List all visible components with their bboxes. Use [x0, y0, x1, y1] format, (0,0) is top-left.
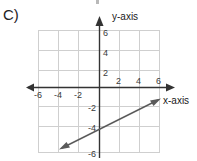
- y-tick-neg2: -2: [88, 103, 96, 113]
- y-tick-labels-negative: -2 -4 -6: [88, 103, 96, 159]
- y-axis-top-arrow: [96, 16, 104, 26]
- y-tick-4: 4: [103, 48, 108, 58]
- graph-canvas: C): [0, 0, 197, 161]
- x-axis-left-arrow: [26, 84, 34, 92]
- x-tick-neg6: -6: [34, 90, 42, 100]
- x-tick-2: 2: [116, 76, 121, 86]
- y-tick-6: 6: [103, 28, 108, 38]
- x-tick-labels-positive: 2 4 6: [116, 76, 161, 86]
- x-axis: [26, 84, 175, 92]
- x-tick-neg4: -4: [54, 90, 62, 100]
- x-tick-6: 6: [156, 76, 161, 86]
- y-tick-labels-positive: 6 4 2: [103, 28, 108, 78]
- coordinate-plane: -6 -4 -2 2 4 6 6 4 2 -2 -4 -6 y-axis x-a…: [0, 0, 197, 161]
- y-axis-label: y-axis: [112, 11, 138, 22]
- x-tick-4: 4: [136, 76, 141, 86]
- x-axis-right-arrow: [166, 84, 175, 92]
- x-tick-neg2: -2: [74, 90, 82, 100]
- y-tick-neg4: -4: [88, 123, 96, 133]
- line-lower-arrow: [59, 142, 70, 150]
- y-tick-neg6: -6: [88, 149, 96, 159]
- x-axis-label: x-axis: [163, 95, 189, 106]
- x-tick-labels-negative: -6 -4 -2: [34, 90, 82, 100]
- y-tick-2: 2: [103, 68, 108, 78]
